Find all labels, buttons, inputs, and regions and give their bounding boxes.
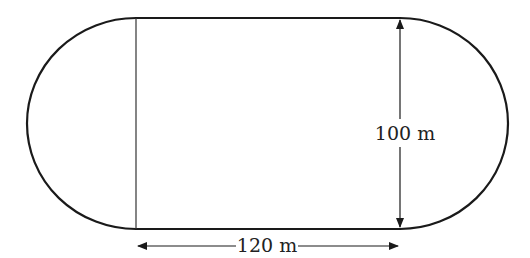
width-label: 120 m: [237, 234, 297, 256]
height-label: 100 m: [375, 122, 435, 144]
track-diagram: 100 m 120 m: [0, 0, 530, 258]
